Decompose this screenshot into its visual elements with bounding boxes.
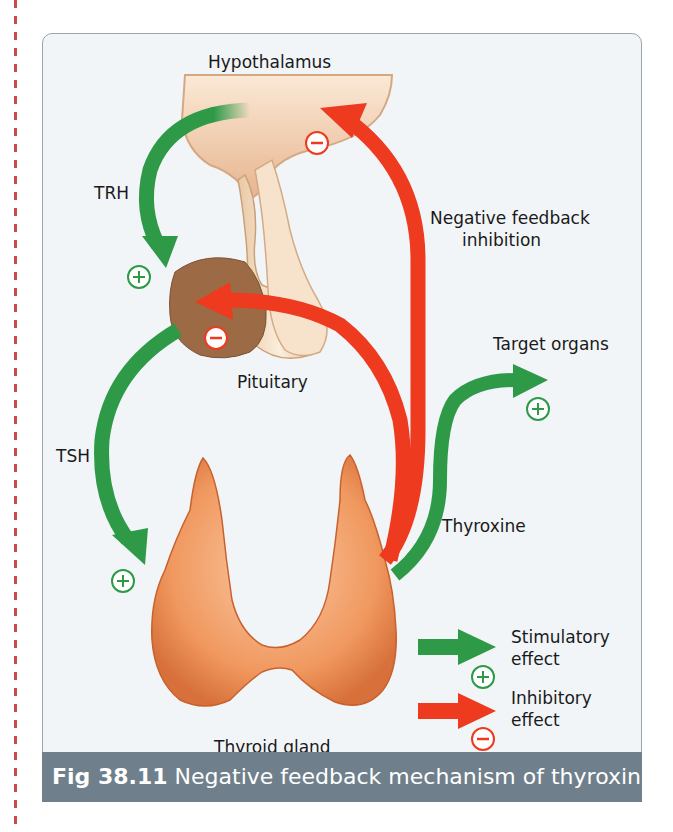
minus-icon-pituitary bbox=[205, 327, 227, 349]
figure-caption: Fig 38.11 Negative feedback mechanism of… bbox=[42, 752, 642, 802]
label-target-organs: Target organs bbox=[493, 334, 609, 354]
label-hypothalamus: Hypothalamus bbox=[208, 52, 331, 72]
legend-inhibitory-line2: effect bbox=[511, 710, 560, 730]
label-pituitary: Pituitary bbox=[237, 372, 308, 392]
caption-text: Negative feedback mechanism of thyroxine… bbox=[168, 764, 662, 789]
label-trh: TRH bbox=[94, 183, 129, 203]
legend-inhibitory-arrow bbox=[418, 693, 496, 729]
caption-number: Fig 38.11 bbox=[52, 764, 168, 789]
label-negative-feedback-line2: inhibition bbox=[462, 230, 541, 250]
tsh-arrow bbox=[102, 330, 178, 565]
label-tsh: TSH bbox=[56, 446, 90, 466]
label-negative-feedback-line1: Negative feedback bbox=[430, 208, 590, 228]
plus-icon-target bbox=[527, 398, 549, 420]
plus-icon-trh bbox=[128, 266, 150, 288]
label-thyroxine: Thyroxine bbox=[442, 516, 526, 536]
legend-stimulatory-line1: Stimulatory bbox=[511, 627, 610, 647]
plus-icon-tsh bbox=[112, 570, 134, 592]
legend-stimulatory-arrow bbox=[418, 629, 496, 665]
legend-inhibitory-line1: Inhibitory bbox=[511, 688, 592, 708]
minus-icon-hypothalamus bbox=[306, 132, 328, 154]
legend-minus-icon bbox=[472, 728, 494, 750]
thyroid-gland-illustration bbox=[152, 455, 396, 706]
legend-stimulatory-line2: effect bbox=[511, 649, 560, 669]
legend-plus-icon bbox=[472, 666, 494, 688]
